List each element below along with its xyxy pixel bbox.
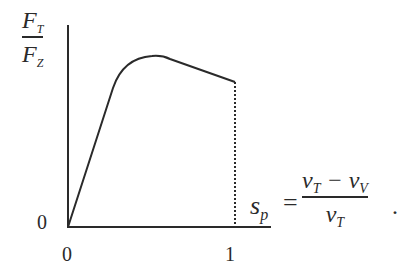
force-ratio-curve bbox=[68, 56, 235, 227]
y-axis-label-denominator: FZ bbox=[22, 42, 43, 66]
slip-denominator: vT bbox=[326, 202, 344, 226]
y-tick-zero: 0 bbox=[37, 212, 47, 232]
fraction-bar bbox=[22, 36, 43, 38]
equals-sign: = bbox=[283, 190, 298, 216]
x-axis-symbol: sp bbox=[250, 193, 268, 219]
fraction-bar bbox=[302, 196, 368, 198]
y-axis-label: FT FZ bbox=[22, 8, 43, 66]
x-tick-zero: 0 bbox=[62, 244, 72, 264]
period: . bbox=[392, 194, 398, 218]
x-tick-one: 1 bbox=[225, 244, 235, 264]
diagram-canvas bbox=[0, 0, 405, 278]
slip-fraction: vT − vV vT bbox=[302, 168, 368, 226]
y-axis-label-numerator: FT bbox=[22, 8, 43, 32]
slip-numerator: vT − vV bbox=[302, 168, 368, 192]
